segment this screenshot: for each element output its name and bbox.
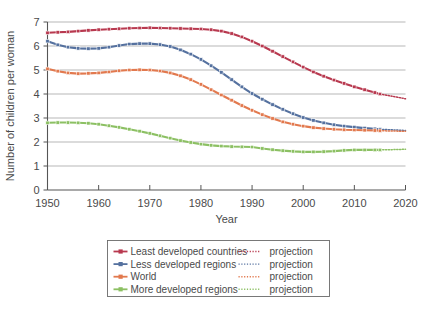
legend-swatch-marker — [119, 275, 123, 279]
data-point — [373, 129, 376, 132]
x-tick-label-1950: 1950 — [35, 197, 59, 209]
legend-projection-label: projection — [270, 259, 313, 270]
data-point — [250, 109, 253, 112]
x-tick-label-2010: 2010 — [342, 197, 366, 209]
data-point — [169, 45, 172, 48]
data-point — [148, 42, 151, 45]
data-point — [322, 127, 325, 130]
data-point — [158, 43, 161, 46]
data-point — [312, 126, 315, 129]
data-point — [199, 83, 202, 86]
legend-item-0[interactable]: Least developed countriesprojection — [114, 246, 313, 257]
x-tick-label-1970: 1970 — [138, 197, 162, 209]
series-3 — [46, 121, 406, 154]
data-point — [250, 145, 253, 148]
data-point — [291, 112, 294, 115]
legend-swatch-marker — [119, 249, 123, 253]
data-point — [189, 78, 192, 81]
legend-label: More developed regions — [131, 284, 238, 295]
grid-lines — [48, 22, 406, 166]
data-point — [97, 123, 100, 126]
y-tick-label-5: 5 — [33, 64, 39, 76]
data-point — [261, 113, 264, 116]
data-point — [148, 132, 151, 135]
data-point — [322, 150, 325, 153]
data-point — [378, 129, 381, 132]
data-point — [117, 126, 120, 129]
data-point — [56, 121, 59, 124]
series-0 — [46, 26, 406, 99]
chart-figure: 01234567 1950196019701980199020002010202… — [0, 0, 432, 318]
data-point — [209, 144, 212, 147]
data-point — [250, 92, 253, 95]
data-point — [117, 44, 120, 47]
data-point — [169, 71, 172, 74]
data-point — [128, 42, 131, 45]
data-point — [209, 64, 212, 67]
data-point — [230, 32, 233, 35]
data-point — [87, 47, 90, 50]
data-point — [179, 74, 182, 77]
legend-item-1[interactable]: Less developed regionsprojection — [114, 259, 313, 270]
y-axis-tick-labels: 01234567 — [33, 16, 39, 196]
data-point — [281, 55, 284, 58]
data-point — [342, 82, 345, 85]
data-point — [363, 88, 366, 91]
data-point — [189, 52, 192, 55]
data-point — [342, 149, 345, 152]
data-point — [189, 27, 192, 30]
chart-legend: Least developed countriesprojectionLess … — [108, 241, 330, 297]
data-point — [158, 26, 161, 29]
data-point — [87, 29, 90, 32]
x-tick-label-1960: 1960 — [86, 197, 110, 209]
series-line-1 — [48, 41, 380, 129]
data-point — [220, 144, 223, 147]
y-tick-label-1: 1 — [33, 160, 39, 172]
data-point — [378, 92, 381, 95]
data-point — [97, 28, 100, 31]
data-point — [128, 128, 131, 131]
data-point — [281, 149, 284, 152]
legend-swatch-marker — [119, 287, 123, 291]
data-point — [189, 141, 192, 144]
data-point — [158, 69, 161, 72]
y-axis-title: Number of children per woman — [4, 31, 16, 181]
data-point — [128, 27, 131, 30]
data-point — [199, 27, 202, 30]
data-point — [66, 46, 69, 49]
data-point — [66, 121, 69, 124]
data-point — [87, 122, 90, 125]
data-point — [240, 145, 243, 148]
data-point — [148, 26, 151, 29]
legend-label: Least developed countries — [131, 246, 248, 257]
data-point — [271, 148, 274, 151]
y-tick-label-4: 4 — [33, 88, 39, 100]
series-line-3 — [48, 123, 380, 152]
data-point — [261, 98, 264, 101]
data-point — [138, 68, 141, 71]
x-tick-label-2020: 2020 — [393, 197, 417, 209]
data-point — [332, 149, 335, 152]
data-point — [363, 148, 366, 151]
data-point — [291, 150, 294, 153]
data-point — [46, 31, 49, 34]
legend-label: Less developed regions — [131, 259, 237, 270]
data-point — [332, 128, 335, 131]
data-point — [220, 29, 223, 32]
legend-projection-label: projection — [270, 271, 313, 282]
x-axis-tick-labels: 19501960197019801990200020102020 — [35, 197, 417, 209]
data-point — [169, 27, 172, 30]
data-point — [76, 47, 79, 50]
data-point — [107, 124, 110, 127]
legend-item-3[interactable]: More developed regionsprojection — [114, 284, 313, 295]
data-point — [46, 121, 49, 124]
y-tick-label-0: 0 — [33, 184, 39, 196]
data-point — [322, 121, 325, 124]
data-point — [353, 128, 356, 131]
data-point — [76, 121, 79, 124]
data-point — [271, 103, 274, 106]
x-axis-title: Year — [215, 213, 238, 225]
series-projection-3 — [380, 149, 406, 150]
data-point — [373, 148, 376, 151]
data-point — [332, 78, 335, 81]
